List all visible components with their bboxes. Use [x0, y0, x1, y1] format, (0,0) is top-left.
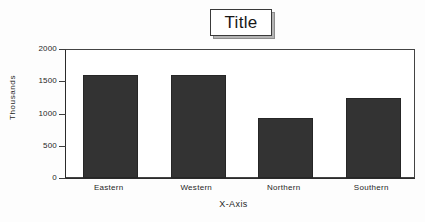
y-axis-tick-mark [59, 114, 66, 115]
x-axis-title: X-Axis [0, 199, 425, 209]
y-axis-tick-label: 1500 [11, 76, 57, 85]
chart-title-box: Title [210, 9, 272, 36]
y-axis-tick-label: 500 [11, 141, 57, 150]
x-axis-category-label: Southern [331, 183, 411, 192]
y-axis-tick-mark [59, 81, 66, 82]
x-axis-category-label: Western [156, 183, 236, 192]
y-axis-tick-mark [59, 178, 66, 179]
y-axis-tick-label: 1000 [11, 109, 57, 118]
bar [171, 75, 226, 178]
x-axis-category-label: Northern [244, 183, 324, 192]
y-axis-tick-mark [59, 49, 66, 50]
bar [346, 98, 401, 178]
y-axis-tick-label: 0 [11, 173, 57, 182]
y-axis-tick-mark [59, 146, 66, 147]
chart-title: Title [211, 10, 271, 35]
bar-chart-figure: Title 0500100015002000 Thousands Eastern… [0, 0, 425, 222]
x-axis-line [65, 178, 415, 179]
y-axis-title: Thousands [8, 63, 17, 133]
y-axis-tick-label: 2000 [11, 44, 57, 53]
x-axis-category-label: Eastern [69, 183, 149, 192]
bar [258, 118, 313, 178]
bar [83, 75, 138, 178]
